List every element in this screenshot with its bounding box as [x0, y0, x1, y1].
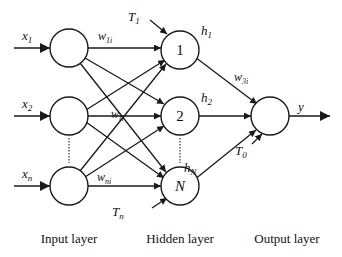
neural-network-diagram: 1 2 N x1 x2 xn w1i wli wni w3i T1 Tn T0 …: [0, 0, 342, 257]
output-label-y: y: [296, 99, 304, 114]
weight-label-w1i: w1i: [98, 29, 112, 45]
input-node-x1: [50, 29, 88, 67]
hidden-layer-nodes: 1 2 N: [161, 31, 199, 205]
threshold-label-t0: T0: [235, 143, 247, 160]
weight-label-wni: wni: [97, 170, 111, 186]
weight-label-wli: wli: [111, 107, 123, 123]
input-node-x2: [50, 97, 88, 135]
input-layer-nodes: [50, 29, 88, 205]
hidden-node-1-label: 1: [176, 42, 184, 58]
hidden-output-connections: [194, 57, 257, 180]
input-label-x2: x2: [21, 96, 33, 113]
input-label-xn: xn: [21, 166, 33, 183]
input-label-x1: x1: [21, 28, 32, 45]
output-layer-label: Output layer: [254, 231, 320, 246]
hidden-layer-label: Hidden layer: [146, 231, 214, 246]
threshold-arrow-tn: [152, 198, 167, 208]
hidden-output-label-hn: hN: [184, 160, 198, 177]
hidden-node-2-label: 2: [176, 108, 184, 124]
weight-label-w3i: w3i: [234, 70, 248, 86]
input-arrows: [14, 48, 50, 186]
threshold-arrow-t0: [252, 134, 262, 144]
threshold-arrow-t1: [150, 20, 167, 34]
hidden-output-label-h2: h2: [201, 90, 213, 107]
input-layer-label: Input layer: [41, 231, 98, 246]
threshold-label-t1: T1: [128, 9, 140, 26]
output-node: [251, 97, 289, 135]
input-node-xn: [50, 167, 88, 205]
hidden-output-label-h1: h1: [201, 23, 212, 40]
hidden-node-n-label: N: [174, 178, 186, 194]
threshold-label-tn: Tn: [112, 204, 124, 221]
